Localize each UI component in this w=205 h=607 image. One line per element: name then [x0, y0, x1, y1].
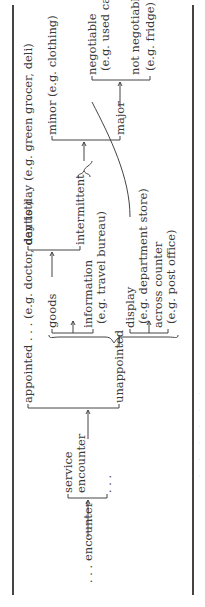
unappointed-label: unappointed: [114, 330, 125, 403]
faint-caption: · · · · · ·: [196, 387, 204, 477]
not-negotiable-label: not negotiable: [130, 0, 141, 75]
root-encounter-label: . . . encounter: [83, 502, 94, 583]
intermittent-label: intermittent: [75, 174, 86, 245]
other-encounter-ellipsis: . . .: [102, 475, 113, 493]
display-label: display: [125, 287, 136, 328]
day-to-day-label: day to day (e.g. green grocer, deli): [23, 43, 34, 245]
negotiable-example: (e.g. used car): [100, 0, 111, 71]
major-label: major: [115, 101, 126, 135]
information-label: information: [83, 260, 94, 328]
across-counter-label: across counter: [153, 242, 164, 328]
negotiable-label: negotiable: [87, 14, 98, 76]
information-example: (e.g. travel bureau): [96, 211, 107, 324]
minor-label: minor (e.g. clothing): [47, 15, 58, 135]
service-label: service: [63, 451, 74, 493]
not-negotiable-example: (e.g. fridge): [145, 2, 156, 71]
display-example: (e.g. department store): [138, 188, 149, 324]
rotated-diagram: . . . encounter service encounter . . . …: [0, 0, 205, 607]
goods-label: goods: [47, 294, 58, 328]
across-counter-example: (e.g. post office): [166, 229, 177, 324]
encounter-label: encounter: [76, 434, 87, 493]
